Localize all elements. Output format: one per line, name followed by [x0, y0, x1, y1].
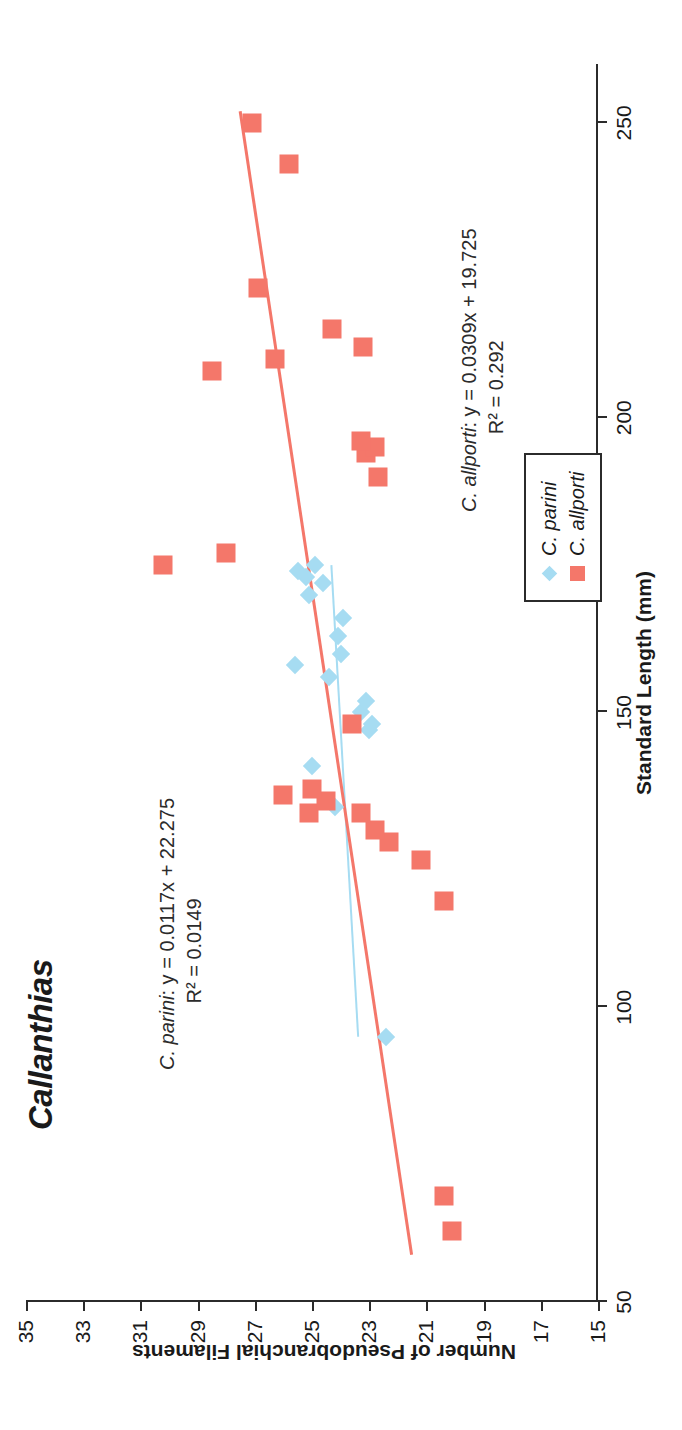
- data-point-c-allporti: [351, 803, 370, 822]
- data-point-c-allporti: [300, 803, 319, 822]
- legend-item-c-allporti[interactable]: C. allporti: [563, 472, 591, 588]
- y-tick: [26, 1302, 28, 1311]
- chart-legend: C. parini C. allporti: [524, 453, 602, 602]
- y-tick-label: 35: [14, 1320, 38, 1343]
- x-tick: [598, 121, 607, 123]
- y-axis-title: Number of Pseudobranchial Filaments: [38, 1340, 610, 1364]
- scatter-chart: Callanthias 5010015020025015171921232527…: [0, 0, 682, 1430]
- data-point-c-allporti: [265, 349, 284, 368]
- data-point-c-allporti: [217, 544, 236, 563]
- y-tick: [255, 1302, 257, 1311]
- data-point-c-allporti: [303, 780, 322, 799]
- annotation-parini: C. parini: y = 0.0117x + 22.275 R² = 0.0…: [154, 798, 208, 1070]
- legend-label-c-parini: C. parini: [538, 482, 561, 556]
- y-tick: [140, 1302, 142, 1311]
- rotated-figure-wrapper: Callanthias 5010015020025015171921232527…: [0, 0, 682, 1430]
- data-point-c-allporti: [248, 279, 267, 298]
- annotation-parini-equation: : y = 0.0117x + 22.275: [156, 798, 178, 996]
- data-point-c-allporti: [434, 1186, 453, 1205]
- legend-label-c-allporti: C. allporti: [566, 472, 589, 556]
- annotation-allporti-r2: R² = 0.292: [483, 228, 510, 512]
- data-point-c-allporti: [434, 892, 453, 911]
- square-marker-icon: [570, 560, 585, 588]
- annotation-allporti-equation: : y = 0.0309x + 19.725: [458, 228, 480, 427]
- data-point-c-allporti: [242, 113, 261, 132]
- x-tick: [598, 710, 607, 712]
- data-point-c-allporti: [354, 337, 373, 356]
- data-point-c-allporti: [323, 320, 342, 339]
- annotation-parini-species: C. parini: [156, 996, 178, 1070]
- data-point-c-allporti: [365, 821, 384, 840]
- data-point-c-allporti: [411, 850, 430, 869]
- data-point-c-allporti: [343, 715, 362, 734]
- y-tick: [312, 1302, 314, 1311]
- data-point-c-allporti: [154, 556, 173, 575]
- annotation-allporti: C. allporti: y = 0.0309x + 19.725 R² = 0…: [456, 228, 510, 512]
- diamond-marker-icon: [544, 560, 555, 588]
- y-tick: [598, 1302, 600, 1311]
- data-point-c-allporti: [274, 786, 293, 805]
- y-tick: [198, 1302, 200, 1311]
- legend-item-c-parini[interactable]: C. parini: [535, 472, 563, 588]
- y-tick: [83, 1302, 85, 1311]
- x-axis-title: Standard Length (mm): [632, 64, 656, 1302]
- y-tick: [426, 1302, 428, 1311]
- data-point-c-allporti: [280, 155, 299, 174]
- y-tick: [369, 1302, 371, 1311]
- y-tick: [484, 1302, 486, 1311]
- x-tick: [598, 1005, 607, 1007]
- trendline-layer: [26, 64, 598, 1302]
- annotation-parini-r2: R² = 0.0149: [181, 798, 208, 1070]
- annotation-allporti-species: C. allporti: [458, 428, 480, 512]
- data-point-c-allporti: [202, 361, 221, 380]
- x-tick: [598, 416, 607, 418]
- data-point-c-allporti: [443, 1222, 462, 1241]
- y-tick: [541, 1302, 543, 1311]
- data-point-c-allporti: [351, 432, 370, 451]
- plot-area: 501001502002501517192123252729313335 C. …: [26, 64, 598, 1302]
- data-point-c-allporti: [368, 467, 387, 486]
